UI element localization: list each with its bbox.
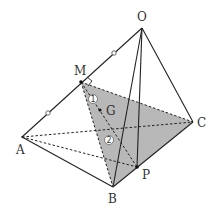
point-g xyxy=(98,108,101,111)
equal-mark-ma xyxy=(46,111,50,115)
point-p xyxy=(135,165,139,169)
shaded-triangle-mbc xyxy=(81,82,193,187)
point-a xyxy=(21,136,23,138)
tetrahedron-diagram: 1 2 O M A B C P G xyxy=(0,0,217,215)
marker-2-label: 2 xyxy=(106,136,111,145)
label-o: O xyxy=(137,10,147,24)
equal-mark-om xyxy=(112,51,116,55)
label-m: M xyxy=(74,64,86,78)
label-p: P xyxy=(142,168,150,182)
point-m xyxy=(79,80,83,84)
label-c: C xyxy=(197,116,206,130)
label-b: B xyxy=(108,192,117,206)
label-a: A xyxy=(15,143,25,157)
marker-1-label: 1 xyxy=(90,95,95,104)
label-g: G xyxy=(106,104,116,118)
marker-2: 2 xyxy=(105,136,114,146)
edge-ab xyxy=(22,137,113,187)
marker-1: 1 xyxy=(89,95,98,105)
